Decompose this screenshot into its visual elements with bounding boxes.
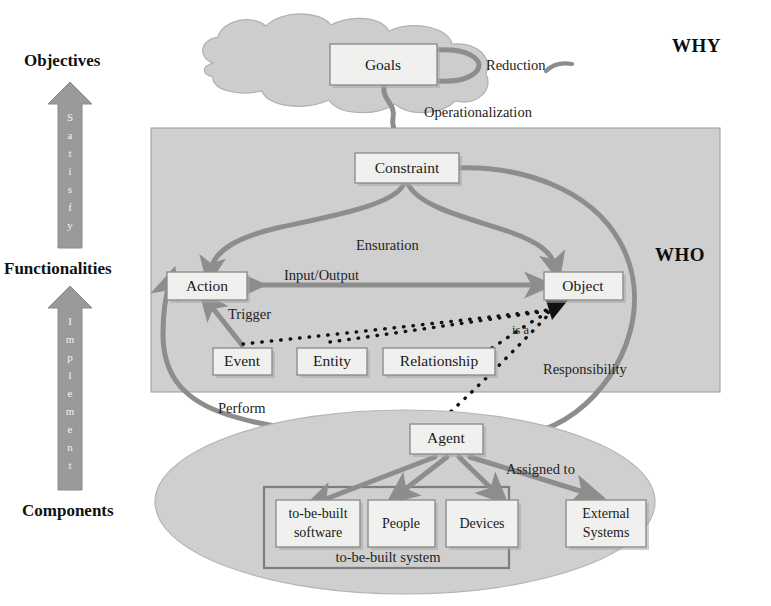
edge-label-reduction: Reduction — [486, 57, 546, 73]
node-external-systems[interactable]: External Systems — [566, 500, 649, 550]
implement-letter-7: n — [67, 441, 73, 453]
node-label-goals: Goals — [365, 56, 401, 73]
node-label-event: Event — [224, 352, 261, 369]
node-object[interactable]: Object — [544, 272, 626, 303]
implement-letter-5: m — [66, 405, 75, 417]
satisfy-letter-6: y — [67, 219, 73, 231]
edge-label-perform: Perform — [218, 400, 266, 416]
edge-label-trigger: Trigger — [228, 306, 271, 322]
node-label-constraint: Constraint — [375, 159, 440, 176]
zone-label-what: WHO — [655, 244, 705, 265]
node-people[interactable]: People — [368, 500, 438, 550]
diagram-canvas: WHY Reduction Operationalization WHO Ens… — [0, 0, 771, 606]
node-label-action: Action — [186, 277, 228, 294]
node-action[interactable]: Action — [167, 272, 250, 303]
edge-label-ensuration: Ensuration — [356, 237, 420, 253]
node-devices[interactable]: Devices — [446, 500, 521, 550]
implement-letter-0: I — [68, 315, 72, 327]
node-label-entity: Entity — [313, 352, 351, 369]
node-constraint[interactable]: Constraint — [355, 153, 462, 186]
implement-letter-6: e — [68, 423, 73, 435]
implement-letter-3: l — [68, 369, 71, 381]
axis-label-functionalities: Functionalities — [4, 259, 112, 278]
axis-arrow-satisfy: S a t i s f y — [48, 82, 92, 248]
implement-letter-4: e — [68, 387, 73, 399]
node-agent[interactable]: Agent — [410, 424, 486, 457]
left-axis: Objectives Functionalities Components S … — [4, 51, 114, 520]
satisfy-letter-0: S — [67, 111, 73, 123]
axis-label-objectives: Objectives — [24, 51, 101, 70]
edge-label-assigned-to: Assigned to — [506, 461, 575, 477]
node-label-object: Object — [562, 277, 604, 294]
node-label-people: People — [382, 516, 420, 531]
axis-label-components: Components — [22, 501, 114, 520]
satisfy-letter-3: i — [68, 165, 71, 177]
node-label-devices: Devices — [459, 516, 504, 531]
node-event[interactable]: Event — [213, 348, 275, 378]
node-label-to-be-built-software-line1: to-be-built — [288, 506, 347, 521]
implement-letter-8: t — [68, 459, 71, 471]
node-relationship[interactable]: Relationship — [383, 348, 498, 378]
satisfy-letter-1: a — [68, 129, 73, 141]
axis-arrow-implement: I m p l e m e n t — [48, 286, 92, 490]
edge-label-operationalization: Operationalization — [424, 104, 533, 120]
implement-letter-2: p — [67, 351, 73, 363]
edge-label-responsibility: Responsibility — [543, 361, 628, 377]
framework-diagram: WHY Reduction Operationalization WHO Ens… — [0, 0, 771, 606]
satisfy-letter-4: s — [68, 183, 72, 195]
zone-label-why: WHY — [672, 35, 721, 56]
node-to-be-built-software[interactable]: to-be-built software — [276, 500, 363, 550]
node-label-external-systems-line1: External — [582, 506, 630, 521]
node-label-external-systems-line2: Systems — [583, 525, 630, 540]
satisfy-letter-5: f — [68, 201, 72, 213]
implement-letter-1: m — [66, 333, 75, 345]
zone-why: WHY — [203, 14, 721, 113]
node-goals[interactable]: Goals — [330, 44, 440, 88]
node-label-agent: Agent — [427, 429, 466, 446]
to-be-built-system-label: to-be-built system — [335, 549, 441, 565]
edge-label-input-output: Input/Output — [284, 267, 359, 283]
node-entity[interactable]: Entity — [297, 348, 370, 378]
node-label-to-be-built-software-line2: software — [294, 525, 342, 540]
edge-label-is-a: is a — [512, 323, 529, 337]
satisfy-letter-2: t — [68, 147, 71, 159]
node-label-relationship: Relationship — [400, 352, 479, 369]
